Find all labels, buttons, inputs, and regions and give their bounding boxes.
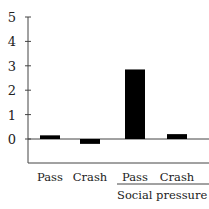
x-tick-label: Pass	[122, 170, 148, 184]
bar	[125, 69, 145, 139]
y-tick-label: 0	[8, 132, 16, 147]
bar	[80, 139, 100, 144]
group-label: Social pressure	[117, 188, 207, 202]
x-tick-label: Crash	[73, 170, 108, 184]
y-tick-label: 2	[8, 83, 16, 98]
y-tick-label: 1	[8, 108, 16, 123]
bar	[167, 134, 187, 139]
x-tick-label: Crash	[160, 170, 195, 184]
bar	[40, 135, 60, 139]
y-tick-label: 3	[8, 59, 16, 74]
x-tick-label: Pass	[37, 170, 63, 184]
y-tick-label: 4	[8, 34, 16, 49]
bar-chart: 012345PassCrashPassCrashSocial pressure	[0, 0, 209, 209]
chart: 012345PassCrashPassCrashSocial pressure	[0, 0, 209, 209]
y-tick-label: 5	[8, 10, 16, 25]
